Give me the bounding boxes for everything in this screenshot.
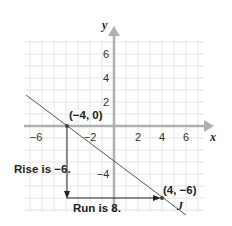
point-neg4-0 bbox=[65, 124, 69, 128]
svg-text:2: 2 bbox=[103, 96, 109, 108]
svg-text:4: 4 bbox=[103, 72, 109, 84]
run-annotation: Run is 8. bbox=[73, 202, 121, 214]
svg-text:4: 4 bbox=[159, 131, 165, 143]
svg-text:6: 6 bbox=[183, 131, 189, 143]
point-label-neg4-0: (−4, 0) bbox=[69, 109, 103, 121]
y-axis-label: y bbox=[100, 18, 108, 32]
coordinate-plane: x y −6 −2 2 4 6 6 4 2 −4 (−4, 0) (4, −6)… bbox=[0, 0, 232, 226]
y-axis-arrow-icon bbox=[108, 26, 120, 36]
svg-text:−4: −4 bbox=[97, 168, 110, 180]
rise-annotation: Rise is −6. bbox=[14, 163, 71, 175]
point-label-4-neg6: (4, −6) bbox=[163, 184, 197, 196]
x-axis-label: x bbox=[209, 130, 216, 144]
svg-text:6: 6 bbox=[103, 48, 109, 60]
svg-text:−2: −2 bbox=[84, 131, 97, 143]
point-4-neg6 bbox=[160, 196, 164, 200]
svg-text:2: 2 bbox=[135, 131, 141, 143]
line-label-j: J bbox=[176, 199, 184, 213]
svg-text:−6: −6 bbox=[30, 131, 43, 143]
